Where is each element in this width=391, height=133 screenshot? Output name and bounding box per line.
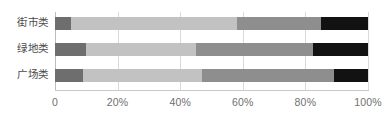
bar-segment[interactable] (71, 17, 237, 30)
bar-row[interactable] (55, 17, 368, 30)
bar-segment[interactable] (83, 69, 202, 82)
x-tick-label: 80% (295, 96, 317, 108)
x-axis-ticks: 020%40%60%80%100% (55, 96, 368, 114)
chart-container: 街市类 绿地类 广场类 020%40%60%80%100% (0, 0, 391, 133)
y-axis-label-2: 广场类 (0, 68, 48, 81)
y-axis-labels: 街市类 绿地类 广场类 (0, 12, 48, 90)
bar-row[interactable] (55, 69, 368, 82)
bar-row[interactable] (55, 43, 368, 56)
bar-segment[interactable] (334, 69, 368, 82)
bar-segment[interactable] (202, 69, 333, 82)
bar-segment[interactable] (196, 43, 313, 56)
y-axis-label-0: 街市类 (0, 16, 48, 29)
bar-segment[interactable] (86, 43, 196, 56)
bar-segment[interactable] (313, 43, 368, 56)
x-tick-label: 20% (107, 96, 129, 108)
y-axis-label-1: 绿地类 (0, 42, 48, 55)
bar-track (55, 69, 368, 82)
x-axis-line (55, 90, 369, 91)
x-tick-label: 60% (232, 96, 254, 108)
bar-track (55, 17, 368, 30)
x-tick-label: 100% (354, 96, 382, 108)
plot-area (55, 12, 368, 90)
bar-segment[interactable] (237, 17, 322, 30)
gridline-100pct (368, 12, 369, 90)
bar-segment[interactable] (321, 17, 368, 30)
bar-track (55, 43, 368, 56)
x-tick-label: 0 (52, 96, 58, 108)
bar-segment[interactable] (55, 69, 83, 82)
bar-segment[interactable] (55, 43, 86, 56)
bar-segment[interactable] (55, 17, 71, 30)
x-tick-label: 40% (169, 96, 191, 108)
